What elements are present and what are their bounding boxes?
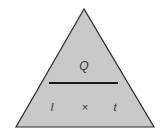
top-label: Q [79,59,88,73]
operator-label: × [82,101,88,113]
bottom-left-label: I [50,101,53,113]
formula-triangle-diagram: Q I × t [0,0,162,139]
